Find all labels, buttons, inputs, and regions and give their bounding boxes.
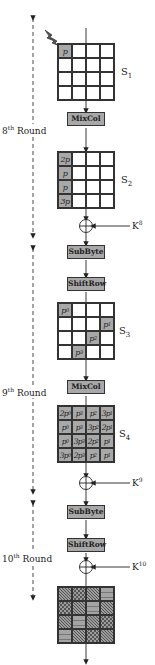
state-cell — [100, 194, 114, 208]
ciphertext-cell-wave-pattern — [86, 601, 100, 615]
round-9-label: 9th Round — [2, 386, 46, 398]
state-cell — [100, 331, 114, 345]
state-cell: 3p2 — [86, 420, 100, 434]
state-cell — [86, 180, 100, 194]
state-cell: p0 — [58, 420, 72, 434]
state-cell: p2 — [86, 406, 100, 420]
round-10-label: 10th Round — [2, 552, 52, 564]
state-cell — [86, 86, 100, 100]
state-s4-label: S4 — [119, 428, 130, 442]
state-cell: p — [58, 180, 72, 194]
state-s3-label: S3 — [119, 325, 130, 339]
state-cell — [72, 166, 86, 180]
ciphertext-cell-cross-pattern — [72, 587, 86, 601]
key-k10-label: K10 — [132, 560, 146, 572]
state-cell: 2p2 — [86, 434, 100, 448]
state-cell — [72, 194, 86, 208]
state-cell — [100, 58, 114, 72]
ciphertext-cell-wave-pattern — [100, 587, 114, 601]
state-cell — [72, 44, 86, 58]
state-cell — [58, 345, 72, 359]
subbyte-box-round10: SubByte — [67, 505, 105, 519]
state-cell — [58, 317, 72, 331]
ciphertext-cell-diag-pattern — [58, 615, 72, 629]
state-s4-grid: 2p0p3p23p1p0p33p22p1p03p32p2p13p02p3p2p1 — [57, 405, 115, 463]
state-cell — [72, 58, 86, 72]
state-cell — [86, 152, 100, 166]
state-s2-label: S2 — [121, 174, 132, 188]
ciphertext-cell-diag-pattern — [100, 601, 114, 615]
state-cell — [100, 72, 114, 86]
state-cell — [86, 44, 100, 58]
state-cell: p3 — [72, 406, 86, 420]
state-cell — [58, 72, 72, 86]
state-cell: p3 — [72, 420, 86, 434]
round-8-label: 8th Round — [2, 124, 46, 136]
state-s1-label: S1 — [121, 66, 132, 80]
ciphertext-cell-diag-pattern — [72, 601, 86, 615]
state-cell — [86, 317, 100, 331]
state-cell: 3p0 — [58, 448, 72, 462]
state-cell — [72, 72, 86, 86]
state-s2-grid: 2ppp3p — [57, 151, 115, 209]
subbyte-box-round9: SubByte — [67, 245, 105, 259]
ciphertext-cell-wave-pattern — [58, 629, 72, 643]
ciphertext-cell-wave-pattern — [72, 615, 86, 629]
shiftrow-box-round9: ShiftRow — [67, 277, 105, 291]
state-cell — [58, 58, 72, 72]
ciphertext-cell-cross-pattern — [86, 629, 100, 643]
state-cell — [72, 180, 86, 194]
state-cell: 3p3 — [72, 434, 86, 448]
state-cell: p — [58, 166, 72, 180]
state-cell — [100, 180, 114, 194]
state-cell — [58, 86, 72, 100]
state-cell: p1 — [100, 317, 114, 331]
state-cell — [100, 345, 114, 359]
state-cell — [86, 72, 100, 86]
state-s1-grid: p — [57, 43, 115, 101]
ciphertext-cell-diag-pattern — [100, 629, 114, 643]
state-cell: 3p1 — [100, 406, 114, 420]
mixcol-box-round8: MixCol — [67, 112, 105, 126]
state-cell: p1 — [100, 434, 114, 448]
state-cell: 3p — [58, 194, 72, 208]
ciphertext-cell-diag-pattern — [86, 587, 100, 601]
state-cell — [100, 303, 114, 317]
state-cell — [86, 166, 100, 180]
state-cell — [86, 303, 100, 317]
state-cell — [72, 86, 86, 100]
state-cell: p3 — [72, 345, 86, 359]
state-cell: 2p — [58, 152, 72, 166]
ciphertext-cell-cross-pattern — [100, 615, 114, 629]
state-cell — [86, 58, 100, 72]
state-cell: 2p1 — [100, 420, 114, 434]
state-cell: 2p3 — [72, 448, 86, 462]
ciphertext-cell-diag-pattern — [72, 629, 86, 643]
key-k8-label: K8 — [132, 219, 143, 231]
state-cell — [100, 152, 114, 166]
ciphertext-cell-diag-pattern — [58, 587, 72, 601]
mixcol-box-round9: MixCol — [67, 380, 105, 394]
shiftrow-box-round10: ShiftRow — [67, 538, 105, 552]
state-cell: p — [58, 44, 72, 58]
state-cell — [72, 331, 86, 345]
state-cell — [58, 331, 72, 345]
state-cell — [72, 152, 86, 166]
ciphertext-cell-diag-pattern — [86, 615, 100, 629]
state-cell: p0 — [58, 434, 72, 448]
key-k9-label: K9 — [132, 476, 143, 488]
state-cell — [86, 345, 100, 359]
state-cell: p1 — [100, 448, 114, 462]
state-cell — [86, 194, 100, 208]
ciphertext-cell-cross-pattern — [58, 601, 72, 615]
ciphertext-faulty-grid — [57, 586, 115, 644]
state-cell — [72, 303, 86, 317]
state-cell — [100, 86, 114, 100]
state-cell: 2p0 — [58, 406, 72, 420]
state-cell — [100, 44, 114, 58]
state-cell — [100, 166, 114, 180]
state-cell: p0 — [58, 303, 72, 317]
state-cell — [72, 317, 86, 331]
state-cell: p2 — [86, 331, 100, 345]
state-s3-grid: p0p1p2p3 — [57, 302, 115, 360]
